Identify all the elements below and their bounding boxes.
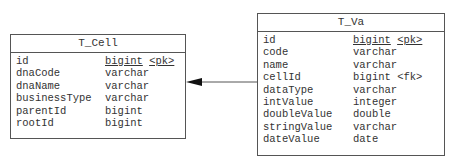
column-type: varchar xyxy=(105,92,149,104)
column-row: code varchar xyxy=(263,46,444,58)
column-row: id bigint <pk> xyxy=(263,34,444,46)
column-type: varchar xyxy=(353,59,397,71)
entity-title: T_Va xyxy=(258,14,444,32)
column-key: <fk> xyxy=(397,71,422,83)
column-row: dnaCode varchar xyxy=(16,67,185,79)
entity-t-va[interactable]: T_Va id bigint <pk> code varchar name va… xyxy=(257,13,445,156)
column-row: parentId bigint xyxy=(16,105,185,117)
column-row: dateValue date xyxy=(263,133,444,145)
column-type: bigint xyxy=(353,71,391,83)
entity-title: T_Cell xyxy=(11,35,185,53)
column-name: intValue xyxy=(263,96,353,108)
column-type: varchar xyxy=(105,67,149,79)
column-name: name xyxy=(263,59,353,71)
arrowhead-icon xyxy=(186,78,202,86)
column-name: businessType xyxy=(16,92,105,104)
column-name: code xyxy=(263,46,353,58)
column-type: bigint xyxy=(105,117,143,129)
column-name: id xyxy=(16,55,105,67)
column-type: varchar xyxy=(105,80,149,92)
column-key: <pk> xyxy=(397,34,422,46)
column-type: bigint xyxy=(353,34,391,46)
column-type: bigint xyxy=(105,55,143,67)
column-type: bigint xyxy=(105,105,143,117)
column-row: intValue integer xyxy=(263,96,444,108)
column-key: <pk> xyxy=(149,55,174,67)
column-type: integer xyxy=(353,96,397,108)
column-type: date xyxy=(353,133,378,145)
column-name: dnaName xyxy=(16,80,105,92)
column-row: doubleValue double xyxy=(263,108,444,120)
column-name: id xyxy=(263,34,353,46)
entity-t-cell[interactable]: T_Cell id bigint <pk> dnaCode varchar dn… xyxy=(10,34,186,139)
column-row: dataType varchar xyxy=(263,84,444,96)
column-row: name varchar xyxy=(263,59,444,71)
column-name: doubleValue xyxy=(263,108,353,120)
column-type: varchar xyxy=(353,46,397,58)
column-type: varchar xyxy=(353,84,397,96)
column-row: id bigint <pk> xyxy=(16,55,185,67)
column-name: parentId xyxy=(16,105,105,117)
column-row: stringValue varchar xyxy=(263,121,444,133)
column-name: stringValue xyxy=(263,121,353,133)
column-type: varchar xyxy=(353,121,397,133)
column-name: dnaCode xyxy=(16,67,105,79)
column-name: rootId xyxy=(16,117,105,129)
column-name: dataType xyxy=(263,84,353,96)
column-row: dnaName varchar xyxy=(16,80,185,92)
column-type: double xyxy=(353,108,391,120)
column-row: cellId bigint <fk> xyxy=(263,71,444,83)
column-row: rootId bigint xyxy=(16,117,185,129)
column-name: dateValue xyxy=(263,133,353,145)
column-row: businessType varchar xyxy=(16,92,185,104)
column-name: cellId xyxy=(263,71,353,83)
